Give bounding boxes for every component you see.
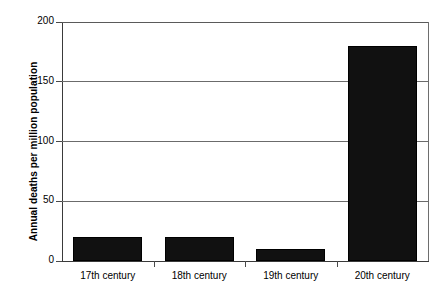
x-category-label: 20th century [337, 270, 429, 282]
bar-chart: Annual deaths per million population 050… [0, 0, 444, 303]
bars-layer [62, 22, 428, 261]
x-category-label: 17th century [62, 270, 154, 282]
x-category-label: 18th century [154, 270, 246, 282]
bar[interactable] [73, 237, 142, 261]
y-tick-label: 200 [8, 16, 54, 26]
x-category-label: 19th century [245, 270, 337, 282]
x-tick-mark [337, 261, 338, 267]
bar[interactable] [348, 46, 417, 261]
y-tick-label: 50 [8, 195, 54, 205]
y-tick-label: 150 [8, 76, 54, 86]
bar[interactable] [256, 249, 325, 261]
y-tick-label: 100 [8, 136, 54, 146]
y-tick-label: 0 [8, 255, 54, 265]
x-tick-mark [154, 261, 155, 267]
bar[interactable] [165, 237, 234, 261]
x-tick-mark [245, 261, 246, 267]
